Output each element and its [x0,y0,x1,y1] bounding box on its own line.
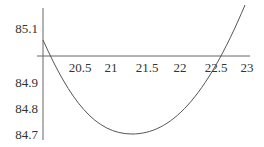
x-tick-labels: 20.5 21 21.5 22 22.5 23 [69,60,254,75]
svg-text:22: 22 [174,60,187,75]
y-tick-labels: 85.1 84.9 84.8 84.7 [15,21,38,142]
svg-text:23: 23 [241,60,254,75]
svg-text:84.8: 84.8 [15,101,38,116]
svg-text:21: 21 [105,60,118,75]
svg-text:84.9: 84.9 [15,75,38,90]
svg-text:22.5: 22.5 [205,60,228,75]
svg-text:84.7: 84.7 [15,127,38,142]
svg-text:85.1: 85.1 [15,21,38,36]
svg-text:20.5: 20.5 [69,60,92,75]
svg-text:21.5: 21.5 [136,60,159,75]
chart: 20.5 21 21.5 22 22.5 23 85.1 84.9 84.8 8… [0,0,264,147]
